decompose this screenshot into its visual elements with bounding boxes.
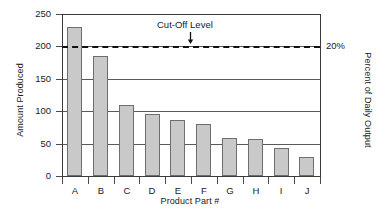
bar — [299, 157, 314, 176]
cutoff-level-label: Cut-Off Level — [157, 19, 213, 30]
x-axis-title: Product Part # — [60, 196, 320, 206]
x-tick-label: H — [244, 185, 268, 196]
right-tick-label-20pct: 20% — [326, 40, 345, 51]
gridline — [62, 14, 320, 15]
bar — [145, 114, 160, 176]
x-tick-label: A — [63, 185, 87, 196]
cutoff-level-line — [62, 46, 320, 48]
x-tick-mark — [243, 177, 244, 184]
y-tick-label-250: 250 — [21, 8, 51, 19]
x-tick-label: G — [218, 185, 242, 196]
y-axis-left-line — [62, 14, 63, 177]
y-tick-mark — [56, 144, 62, 145]
x-tick-mark — [139, 177, 140, 184]
x-tick-mark — [268, 177, 269, 184]
x-tick-mark — [191, 177, 192, 184]
y-tick-label-200: 200 — [21, 40, 51, 51]
x-tick-label: B — [89, 185, 113, 196]
x-tick-label: J — [295, 185, 319, 196]
y-tick-mark — [56, 14, 62, 15]
bar — [248, 139, 263, 176]
bar — [170, 120, 185, 176]
x-tick-label: F — [192, 185, 216, 196]
x-tick-label: E — [166, 185, 190, 196]
bar — [196, 124, 211, 176]
x-tick-label: D — [140, 185, 164, 196]
bar — [222, 138, 237, 176]
x-tick-mark — [88, 177, 89, 184]
x-tick-mark — [320, 177, 321, 184]
x-tick-mark — [217, 177, 218, 184]
y-axis-title-right: Percent of Daily Output — [363, 45, 373, 155]
x-tick-mark — [62, 177, 63, 184]
bar — [93, 56, 108, 176]
x-tick-label: C — [115, 185, 139, 196]
bar — [119, 105, 134, 176]
x-tick-label: I — [269, 185, 293, 196]
bar — [67, 27, 82, 176]
y-axis-title-left: Amount Produced — [15, 50, 25, 150]
y-tick-mark — [56, 79, 62, 80]
y-tick-label-0: 0 — [21, 170, 51, 181]
x-tick-mark — [114, 177, 115, 184]
cutoff-arrow-icon — [186, 32, 195, 44]
y-tick-mark — [56, 111, 62, 112]
x-tick-mark — [294, 177, 295, 184]
y-tick-label-150: 150 — [21, 73, 51, 84]
pareto-chart: Amount Produced Percent of Daily Output … — [0, 0, 385, 216]
y-axis-right-line — [320, 14, 321, 177]
bar — [274, 148, 289, 176]
y-tick-label-100: 100 — [21, 105, 51, 116]
x-tick-mark — [165, 177, 166, 184]
y-tick-label-50: 50 — [21, 138, 51, 149]
